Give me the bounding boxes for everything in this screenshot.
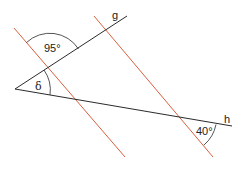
ray-h [15, 89, 232, 126]
angle-arc-delta [44, 70, 50, 95]
angle-label-40: 40° [196, 125, 213, 137]
ray-g [15, 16, 127, 89]
geometry-diagram: g h 95° δ 40° [0, 0, 243, 171]
parallel-line-1 [14, 28, 125, 157]
label-g: g [112, 9, 118, 21]
angle-label-95: 95° [44, 42, 61, 54]
angle-label-delta: δ [35, 80, 42, 93]
diagram-svg: g h 95° δ 40° [0, 0, 243, 171]
label-h: h [224, 113, 230, 125]
